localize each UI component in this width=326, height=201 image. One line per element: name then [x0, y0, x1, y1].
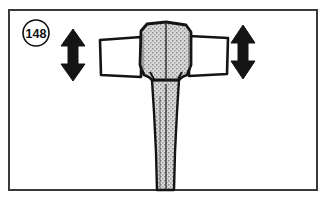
figure-number-badge: 148 — [23, 20, 49, 46]
right-face-flange — [189, 36, 228, 76]
figure-container: 148 — [0, 0, 326, 201]
mallet-head-block — [140, 22, 191, 80]
figure-number-label: 148 — [26, 27, 47, 41]
left-face-flange — [100, 37, 141, 77]
figure-illustration: 148 — [0, 0, 326, 201]
mallet-shaft — [152, 80, 179, 190]
